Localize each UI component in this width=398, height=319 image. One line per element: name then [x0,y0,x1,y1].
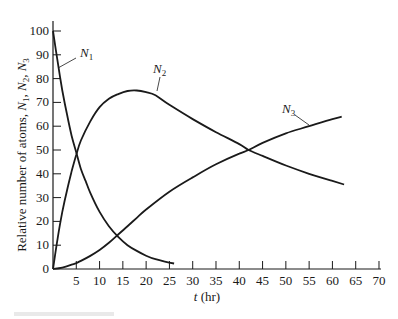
y-tick-label: 40 [36,166,49,181]
figure-caption-cutoff [14,312,114,316]
y-tick-label: 10 [36,237,49,252]
decay-chain-chart: 0102030405060708090100 51015202530354045… [0,0,398,319]
leader-line-n1 [58,58,76,68]
x-tick-label: 60 [326,273,339,288]
y-tick-label: 80 [36,71,49,86]
x-tick-label: 70 [372,273,385,288]
y-tick-label: 60 [36,118,49,133]
label-n3: N3 [281,101,296,118]
y-tick-label: 90 [36,47,49,62]
x-tick-label: 40 [233,273,246,288]
label-n2: N2 [152,61,166,78]
curve-n3 [53,117,342,269]
x-tick-label: 35 [209,273,222,288]
y-axis-ticks: 0102030405060708090100 [30,23,62,276]
x-tick-label: 65 [349,273,362,288]
x-tick-label: 5 [73,273,80,288]
leader-line-n3 [295,115,309,125]
x-axis-title: t (hr) [194,289,220,304]
y-tick-label: 20 [36,213,49,228]
x-tick-label: 55 [303,273,316,288]
y-tick-label: 70 [36,94,49,109]
x-tick-label: 25 [163,273,176,288]
y-axis-title: Relative number of atoms, N1, N2, N3 [14,58,31,252]
y-tick-label: 0 [43,261,50,276]
label-n1: N1 [79,45,93,62]
axes [53,21,381,269]
data-series [53,31,344,269]
y-tick-label: 100 [30,23,50,38]
x-tick-label: 50 [279,273,292,288]
curve-n2 [53,90,344,269]
y-tick-label: 50 [36,142,49,157]
x-tick-label: 30 [186,273,199,288]
leader-line-n2 [157,77,160,91]
y-tick-label: 30 [36,190,49,205]
x-tick-label: 15 [116,273,129,288]
x-tick-label: 20 [140,273,153,288]
x-axis-ticks: 510152025303540455055606570 [73,261,385,288]
x-tick-label: 10 [93,273,106,288]
x-tick-label: 45 [256,273,269,288]
